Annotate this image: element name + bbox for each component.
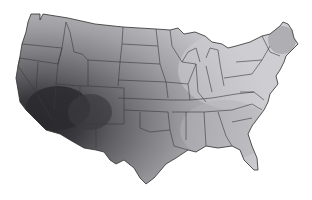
us-choropleth-map xyxy=(0,0,312,200)
map-canvas xyxy=(0,0,312,200)
